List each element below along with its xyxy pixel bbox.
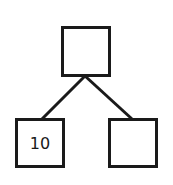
left-child-node-label: 10 [30,134,50,153]
root-node [61,26,111,77]
right-child-node [108,118,158,168]
edge-root-right [85,76,132,119]
left-child-node: 10 [15,118,65,168]
edge-root-left [42,76,85,119]
